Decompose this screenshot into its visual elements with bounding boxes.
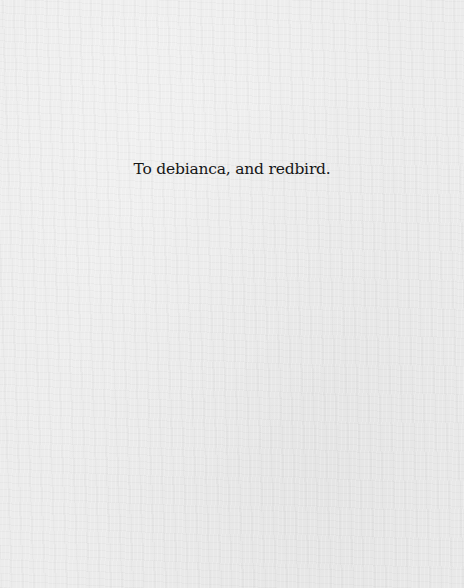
dedication-text: To debianca, and redbird. <box>0 158 464 180</box>
dedication-page: To debianca, and redbird. <box>0 0 464 588</box>
